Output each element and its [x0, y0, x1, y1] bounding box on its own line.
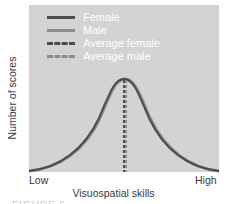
y-axis-label: Number of scores — [6, 48, 18, 148]
legend-label: Female — [83, 11, 120, 24]
x-tick-low: Low — [29, 174, 48, 186]
legend-swatch-female — [47, 16, 75, 19]
x-axis-label: Visuospatial skills — [0, 187, 227, 199]
legend-label: Average female — [83, 37, 160, 50]
legend: Female Male Average female Average male — [47, 11, 160, 63]
legend-label: Male — [83, 24, 107, 37]
legend-item-female: Female — [47, 11, 160, 24]
legend-label: Average male — [83, 50, 151, 63]
x-tick-high: High — [195, 174, 217, 186]
legend-item-average-female: Average female — [47, 37, 160, 50]
legend-swatch-average-male — [47, 55, 75, 58]
legend-item-male: Male — [47, 24, 160, 37]
legend-item-average-male: Average male — [47, 50, 160, 63]
figure-caption: FIGURE 6 — [12, 200, 66, 204]
legend-swatch-male — [47, 29, 75, 32]
legend-swatch-average-female — [47, 42, 75, 45]
